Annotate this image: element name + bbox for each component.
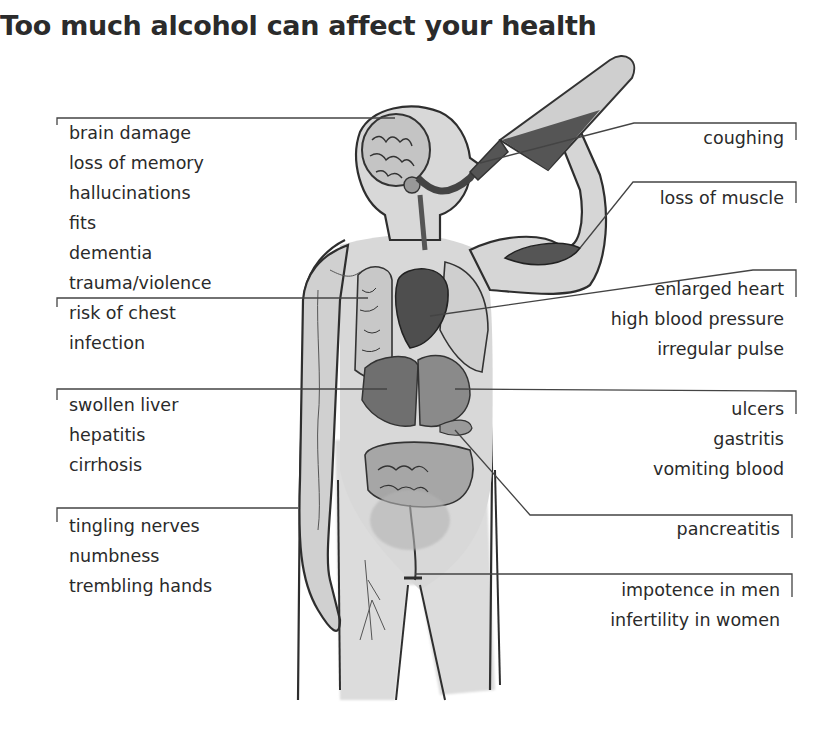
label-dementia: dementia [69, 238, 212, 268]
label-infertility-in-women: infertility in women [610, 605, 780, 635]
label-group-liver: swollen liver hepatitis cirrhosis [69, 390, 178, 480]
label-trembling-hands: trembling hands [69, 571, 212, 601]
label-group-nerves: tingling nerves numbness trembling hands [69, 511, 212, 601]
label-group-throat: coughing [703, 123, 784, 153]
label-hepatitis: hepatitis [69, 420, 178, 450]
label-trauma-violence: trauma/violence [69, 268, 212, 298]
label-coughing: coughing [703, 123, 784, 153]
label-risk-of-chest: risk of chest [69, 298, 176, 328]
label-gastritis: gastritis [653, 424, 784, 454]
label-impotence-in-men: impotence in men [610, 575, 780, 605]
label-group-lungs: risk of chest infection [69, 298, 176, 358]
label-enlarged-heart: enlarged heart [611, 274, 784, 304]
label-hallucinations: hallucinations [69, 178, 212, 208]
label-loss-of-muscle: loss of muscle [660, 183, 784, 213]
pancreas [440, 420, 472, 435]
bottle-icon [470, 56, 634, 180]
label-numbness: numbness [69, 541, 212, 571]
label-irregular-pulse: irregular pulse [611, 334, 784, 364]
label-pancreatitis: pancreatitis [677, 514, 780, 544]
label-cirrhosis: cirrhosis [69, 450, 178, 480]
label-swollen-liver: swollen liver [69, 390, 178, 420]
label-high-blood-pressure: high blood pressure [611, 304, 784, 334]
label-fits: fits [69, 208, 212, 238]
label-ulcers: ulcers [653, 394, 784, 424]
label-tingling-nerves: tingling nerves [69, 511, 212, 541]
label-group-pancreas: pancreatitis [677, 514, 780, 544]
label-group-stomach: ulcers gastritis vomiting blood [653, 394, 784, 484]
label-vomiting-blood: vomiting blood [653, 454, 784, 484]
label-group-reproductive: impotence in men infertility in women [610, 575, 780, 635]
label-loss-of-memory: loss of memory [69, 148, 212, 178]
label-group-brain: brain damage loss of memory hallucinatio… [69, 118, 212, 298]
label-group-heart: enlarged heart high blood pressure irreg… [611, 274, 784, 364]
label-brain-damage: brain damage [69, 118, 212, 148]
label-group-muscle: loss of muscle [660, 183, 784, 213]
label-infection: infection [69, 328, 176, 358]
